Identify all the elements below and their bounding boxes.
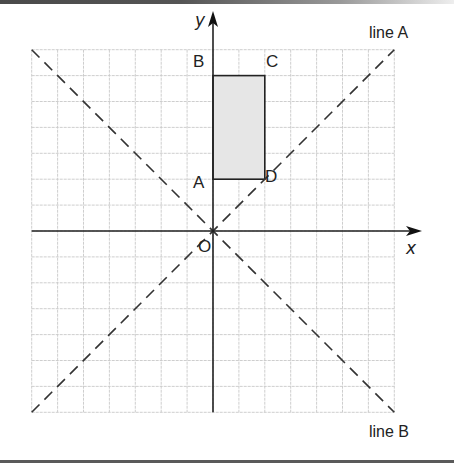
coordinate-diagram: x y O A B C D line A line B (0, 0, 454, 467)
bottom-border (0, 460, 454, 463)
point-label-d: D (265, 167, 277, 186)
point-label-c: C (266, 52, 278, 71)
point-label-a: A (193, 173, 205, 192)
point-label-b: B (193, 52, 204, 71)
y-axis-label: y (194, 10, 206, 30)
line-a-label: line A (369, 24, 408, 41)
x-axis-label: x (405, 238, 417, 258)
line-b-label: line B (369, 423, 409, 440)
origin-label: O (198, 237, 211, 256)
rectangle-abcd (213, 76, 265, 180)
